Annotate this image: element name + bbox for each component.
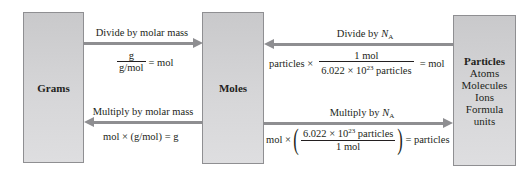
particles-to-moles-equation: particles × 1 mol 6.022 × 1023 particles… [269, 50, 445, 77]
grams-label: Grams [37, 82, 69, 94]
fraction: 1 mol 6.022 × 1023 particles [319, 50, 414, 77]
grams-to-moles-caption: Divide by molar mass [90, 27, 194, 38]
moles-to-grams-caption: Multiply by molar mass [90, 106, 196, 117]
grams-box: Grams [23, 12, 84, 163]
den-suffix: particles [373, 65, 411, 76]
arrow-head-left-icon [264, 39, 274, 49]
grams-to-moles-equation: g g/mol = mol [114, 50, 173, 74]
arrow-head-right-icon [193, 38, 203, 48]
equation-result: = particles [405, 134, 449, 145]
particles-to-moles-arrow [273, 43, 453, 46]
equation-prefix: mol × [266, 134, 291, 145]
moles-to-particles-caption: Multiply by NA [322, 107, 402, 120]
avogadro-subscript: A [388, 33, 393, 41]
fraction-numerator: 1 mol [352, 50, 380, 61]
close-paren: ) [398, 124, 404, 154]
particles-item-atoms: Atoms [470, 67, 499, 79]
moles-label: Moles [219, 82, 247, 94]
moles-to-particles-equation: mol × ( 6.022 × 1023 particles 1 mol ) =… [266, 124, 450, 154]
open-paren: ( [293, 124, 299, 154]
fraction-numerator: 6.022 × 1023 particles [301, 125, 396, 141]
moles-box: Moles [202, 12, 264, 164]
fraction-denominator: g/mol [117, 61, 146, 74]
moles-to-grams-arrow [93, 121, 202, 124]
arrow-head-left-icon [84, 117, 94, 127]
equation-result: = mol [149, 57, 174, 68]
particles-box: Particles Atoms Molecules Ions Formula u… [453, 15, 516, 166]
particles-item-formula-units: Formula units [454, 103, 515, 127]
particles-item-ions: Ions [475, 91, 494, 103]
fraction-denominator: 6.022 × 1023 particles [319, 61, 414, 77]
num-suffix: particles [355, 128, 393, 139]
grams-to-moles-arrow [84, 42, 194, 45]
particles-item-molecules: Molecules [462, 79, 508, 91]
particles-to-moles-caption: Divide by NA [330, 28, 400, 41]
num-base: 6.022 × 10 [303, 128, 348, 139]
caption-text: Multiply by [330, 107, 383, 118]
fraction-numerator: g [127, 50, 136, 61]
fraction: g g/mol [117, 50, 146, 74]
caption-text: Divide by [337, 28, 381, 39]
equation-result: = mol [420, 58, 445, 69]
avogadro-subscript: A [389, 112, 394, 120]
den-base: 6.022 × 10 [321, 65, 366, 76]
fraction: 6.022 × 1023 particles 1 mol [301, 125, 396, 153]
fraction-denominator: 1 mol [334, 141, 362, 153]
moles-to-grams-equation: mol × (g/mol) = g [103, 131, 178, 142]
equation-prefix: particles × [269, 58, 313, 69]
particles-label: Particles [464, 55, 505, 67]
